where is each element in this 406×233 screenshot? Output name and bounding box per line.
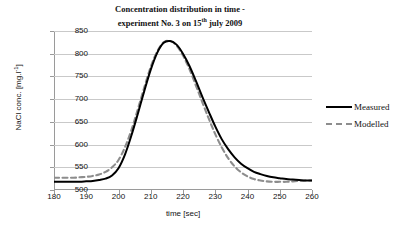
y-axis-tick <box>50 31 54 32</box>
chart-title-line1: Concentration distribution in time - <box>115 4 245 14</box>
chart-title: Concentration distribution in time - exp… <box>70 4 290 28</box>
legend-swatch-solid-line <box>326 102 352 112</box>
y-axis-tick <box>50 145 54 146</box>
x-axis-tick <box>151 190 152 194</box>
legend-label-measured: Measured <box>352 102 390 112</box>
y-axis-tick <box>50 54 54 55</box>
x-axis-tick <box>183 190 184 194</box>
x-axis-tick <box>312 190 313 194</box>
y-axis-title-exponent: -1 <box>13 66 19 71</box>
plot-area <box>54 31 312 190</box>
y-axis-tick-label: 550 <box>60 162 88 171</box>
x-axis-tick <box>280 190 281 194</box>
y-axis-tick <box>50 167 54 168</box>
chart-title-line2-post: july 2009 <box>207 17 242 27</box>
y-axis-tick <box>50 76 54 77</box>
x-axis-tick <box>54 190 55 194</box>
y-axis-tick-label: 700 <box>60 94 88 103</box>
chart-figure: Concentration distribution in time - exp… <box>0 0 406 233</box>
chart-title-line2-pre: experiment No. 3 on 15 <box>118 17 202 27</box>
legend-item-modelled: Modelled <box>326 115 404 132</box>
legend-swatch-dashed-line <box>326 119 352 129</box>
x-axis-tick <box>215 190 216 194</box>
x-axis-tick <box>86 190 87 194</box>
x-axis-tick <box>248 190 249 194</box>
y-axis-tick-label: 850 <box>60 26 88 35</box>
y-axis-tick-label: 800 <box>60 49 88 58</box>
y-axis-title-pre: NaCl conc. [mg.l <box>14 72 23 131</box>
y-axis-tick-label: 650 <box>60 117 88 126</box>
series-line-modelled <box>54 41 312 182</box>
chart-legend: Measured Modelled <box>326 98 404 132</box>
series-line-measured <box>54 41 312 182</box>
x-axis-title: time [sec] <box>54 209 312 218</box>
legend-item-measured: Measured <box>326 98 404 115</box>
y-axis-title: NaCl conc. [mg.l-1] <box>13 32 24 162</box>
legend-label-modelled: Modelled <box>352 119 389 129</box>
y-axis-tick <box>50 99 54 100</box>
series-svg <box>54 31 312 190</box>
y-axis-tick-label: 750 <box>60 71 88 80</box>
x-axis-tick <box>119 190 120 194</box>
y-axis-tick-label: 600 <box>60 140 88 149</box>
y-axis-tick <box>50 122 54 123</box>
y-axis-title-post: ] <box>14 64 23 66</box>
series-container <box>54 31 312 190</box>
